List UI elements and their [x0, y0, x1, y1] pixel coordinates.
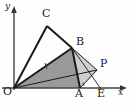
point-label-B: B [76, 36, 84, 47]
point-label-E: E [97, 88, 105, 99]
diagram-canvas [0, 0, 132, 111]
point-label-A: A [75, 88, 83, 99]
y-axis-label: y [5, 2, 10, 11]
y-axis-arrow-icon [11, 6, 17, 13]
point-label-P: P [100, 58, 107, 69]
segment-C-B [47, 26, 72, 48]
point-label-C: C [42, 8, 50, 19]
point-label-O: O [3, 86, 12, 97]
geometry-figure: O C B A E P x y [0, 0, 132, 111]
x-axis-label: x [118, 88, 123, 97]
